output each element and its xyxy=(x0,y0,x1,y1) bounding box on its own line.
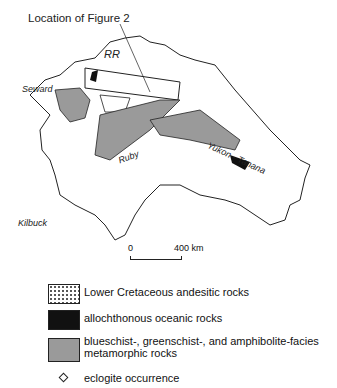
legend-item-oceanic: allochthonous oceanic rocks xyxy=(48,308,337,330)
legend-item-metamorphic: blueschist-, greenschist-, and amphiboli… xyxy=(48,334,337,366)
seward-region xyxy=(55,88,90,122)
legend-item-eclogite: eclogite occurrence xyxy=(48,370,337,388)
alaska-outline xyxy=(30,36,310,240)
figure-location-label: Location of Figure 2 xyxy=(28,12,130,24)
diamond-icon xyxy=(59,373,69,383)
rr-box xyxy=(85,68,180,100)
black-region xyxy=(90,70,98,82)
kilbuck-label: Kilbuck xyxy=(18,218,47,228)
scale-line xyxy=(130,256,182,260)
scale-end: 400 km xyxy=(174,243,204,253)
scale-bar: 0 400 km xyxy=(130,243,190,263)
dotted-swatch xyxy=(48,284,80,304)
black-swatch xyxy=(48,310,80,330)
seward-label: Seward xyxy=(22,84,53,94)
scale-start: 0 xyxy=(128,243,133,253)
legend: Lower Cretaceous andesitic rocks allocht… xyxy=(48,282,337,388)
legend-item-andesitic: Lower Cretaceous andesitic rocks xyxy=(48,282,337,304)
leader-line xyxy=(120,24,150,92)
gray-swatch xyxy=(48,338,80,362)
rr-label: RR xyxy=(104,48,120,60)
